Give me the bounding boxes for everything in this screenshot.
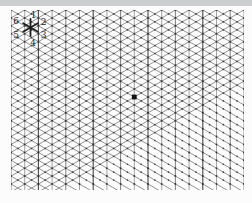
isometric-grid-figure (0, 0, 252, 203)
direction-label-5: 5 (13, 31, 19, 40)
direction-label-2: 2 (41, 17, 47, 26)
point-marker (132, 95, 137, 100)
direction-label-1: 1 (31, 11, 37, 20)
direction-label-3: 3 (41, 31, 47, 40)
direction-label-4: 4 (30, 39, 36, 48)
direction-label-6: 6 (13, 16, 19, 25)
figure-canvas: 1 2 3 4 5 6 (0, 0, 252, 203)
